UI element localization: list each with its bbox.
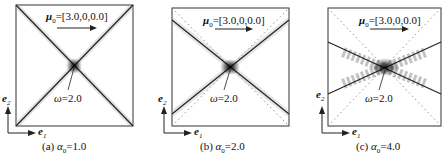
- e1-label-b: e1: [194, 125, 202, 140]
- omega-label-c: ω=2.0: [365, 92, 393, 104]
- mu-label-c: μ0=[3.0,0,0.0]: [359, 14, 421, 29]
- panel-a: μ0=[3.0,0,0.0] ω=2.0 e2 e1 (a) α0=1.0: [0, 0, 148, 157]
- omega-label-b: ω=2.0: [210, 92, 238, 104]
- mu-label-b: μ0=[3.0,0,0.0]: [203, 14, 265, 29]
- e1-label-c: e1: [352, 125, 360, 140]
- e1-label-a: e1: [38, 125, 46, 140]
- e2-label-c: e2: [316, 88, 324, 103]
- caption-c: (c) α0=4.0: [356, 140, 400, 155]
- panel-b: μ0=[3.0,0,0.0] ω=2.0 e2 e1 (b) α0=2.0: [148, 0, 298, 157]
- panel-c: μ0=[3.0,0,0.0] ω=2.0 e2 e1 (c) α0=4.0: [298, 0, 445, 157]
- omega-label-a: ω=2.0: [54, 92, 82, 104]
- e2-label-b: e2: [158, 92, 166, 107]
- e2-label-a: e2: [2, 92, 10, 107]
- mu-label-a: μ0=[3.0,0,0.0]: [46, 10, 108, 25]
- caption-a: (a) α0=1.0: [42, 140, 86, 155]
- caption-b: (b) α0=2.0: [200, 140, 245, 155]
